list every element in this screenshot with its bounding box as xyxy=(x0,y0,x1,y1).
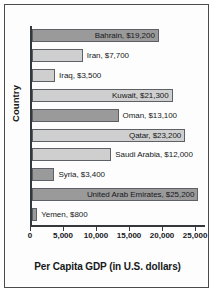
bar-label: Saudi Arabia, $12,000 xyxy=(111,148,193,161)
bar-row: Kuwait, $21,300 xyxy=(32,86,207,105)
x-axis-tick-label: 25,000 xyxy=(175,231,215,240)
bar-row: Iran, $7,700 xyxy=(32,46,207,65)
y-axis-title: Country xyxy=(10,74,21,134)
bar-label: United Arab Emirates, $25,200 xyxy=(32,188,198,201)
bar-row: Saudi Arabia, $12,000 xyxy=(32,145,207,164)
bar-label: Oman, $13,100 xyxy=(119,109,178,122)
bar xyxy=(32,109,119,122)
x-axis-title: Per Capita GDP (in U.S. dollars) xyxy=(6,261,209,272)
bar-row: Qatar, $23,200 xyxy=(32,126,207,145)
plot-area: Bahrain, $19,200Iran, $7,700Iraq, $3,500… xyxy=(30,26,205,225)
x-axis-line xyxy=(30,225,205,227)
bar-row: Oman, $13,100 xyxy=(32,106,207,125)
bar-row: Syria, $3,400 xyxy=(32,165,207,184)
bar-label: Yemen, $800 xyxy=(37,208,87,221)
bar xyxy=(32,168,54,181)
bar xyxy=(32,69,55,82)
chart-canvas: Country Bahrain, $19,200Iran, $7,700Iraq… xyxy=(6,6,207,286)
bar-row: Yemen, $800 xyxy=(32,205,207,224)
bar-row: United Arab Emirates, $25,200 xyxy=(32,185,207,204)
bar-row: Iraq, $3,500 xyxy=(32,66,207,85)
bar-row: Bahrain, $19,200 xyxy=(32,26,207,45)
bar-label: Syria, $3,400 xyxy=(54,168,105,181)
bar-label: Iraq, $3,500 xyxy=(55,69,101,82)
bar xyxy=(32,148,111,161)
bar-label: Qatar, $23,200 xyxy=(32,129,185,142)
bar-label: Iran, $7,700 xyxy=(83,49,129,62)
bar-label: Kuwait, $21,300 xyxy=(32,89,173,102)
bar xyxy=(32,49,83,62)
bar-label: Bahrain, $19,200 xyxy=(32,29,159,42)
chart-frame: Country Bahrain, $19,200Iran, $7,700Iraq… xyxy=(4,4,209,288)
